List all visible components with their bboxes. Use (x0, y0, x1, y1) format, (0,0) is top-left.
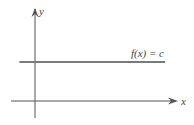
function-label: f(x) = c (131, 47, 164, 60)
x-axis-label: x (180, 95, 186, 107)
constant-function-graph: y x f(x) = c (0, 0, 194, 125)
y-axis-label: y (38, 5, 44, 17)
